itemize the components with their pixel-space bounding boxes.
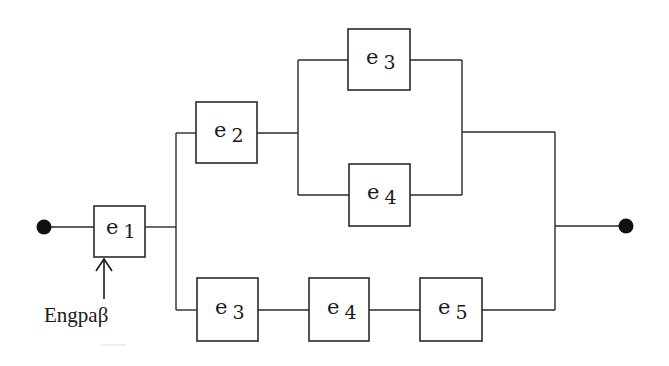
block-e3-upper: e3 bbox=[348, 29, 410, 90]
block-e5: e5 bbox=[420, 278, 482, 341]
input-terminal bbox=[37, 220, 52, 235]
reliability-diagram: e1 e2 e3 e4 e3 e4 e5 Engpaβ bbox=[0, 0, 669, 366]
connections bbox=[44, 60, 626, 310]
block-e2: e2 bbox=[196, 102, 257, 163]
block-e1: e1 bbox=[94, 206, 145, 257]
block-e4-lower: e4 bbox=[309, 278, 369, 341]
block-e4-upper: e4 bbox=[349, 164, 410, 226]
bottleneck-annotation: Engpaβ bbox=[44, 259, 112, 327]
bottleneck-label: Engpaβ bbox=[44, 303, 108, 327]
output-terminal bbox=[619, 219, 634, 234]
block-e3-lower: e3 bbox=[197, 278, 258, 341]
